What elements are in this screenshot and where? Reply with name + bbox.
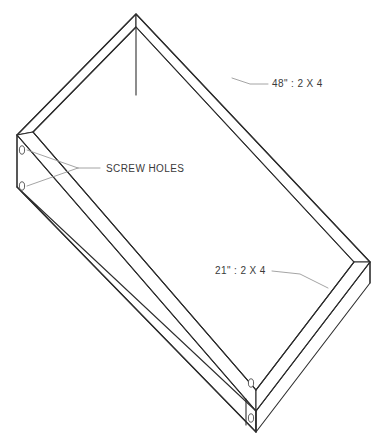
screw-holes-label: SCREW HOLES: [106, 163, 184, 174]
box-structure: [17, 14, 370, 432]
short-side-label: 21" : 2 X 4: [215, 265, 266, 276]
near-right-outer-face: [256, 262, 370, 432]
left-end-outer-face: [17, 135, 256, 432]
box-frame-isometric-drawing: 48" : 2 X 4 21" : 2 X 4 SCREW HOLES: [0, 0, 385, 448]
screw-hole-left-lower: [19, 182, 24, 190]
long-side-leader-line: [232, 78, 268, 84]
screw-hole-front-lower: [248, 414, 253, 422]
near-left-bottom-outline: [17, 187, 256, 432]
screw-hole-front-upper: [248, 379, 253, 387]
screw-hole-left-upper: [19, 146, 24, 154]
short-side-leader-line: [272, 271, 328, 288]
long-side-label: 48" : 2 X 4: [272, 78, 323, 89]
